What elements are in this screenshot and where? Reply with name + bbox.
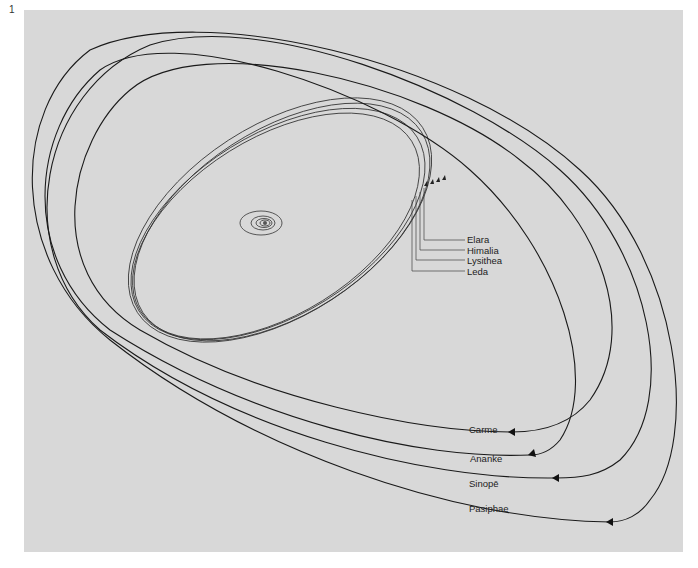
elara-leader: [424, 188, 465, 240]
himalia-arrow-icon: [430, 179, 434, 184]
callisto-orbit: [240, 211, 282, 235]
label-sinope: Sinopē: [469, 478, 499, 489]
leda-arrow-icon: [442, 175, 446, 180]
label-leda: Leda: [467, 266, 489, 277]
carme-orbit: [75, 64, 612, 432]
jupiter-icon: [263, 221, 267, 225]
pasiphae-orbit: [32, 32, 676, 522]
lysithea-leader: [416, 196, 465, 260]
inner-leader-lines: [412, 188, 465, 271]
lysithea-orbit: [91, 61, 465, 387]
central-system: [240, 211, 282, 235]
label-pasiphae: Pasiphae: [469, 503, 509, 514]
pasiphae-arrow-icon: [606, 518, 613, 526]
jupiter-moon-orbits-diagram: Elara Himalia Lysithea Leda Carme Ananke…: [0, 0, 698, 568]
ananke-arrow-icon: [528, 449, 536, 457]
lysithea-arrow-icon: [436, 177, 440, 182]
label-elara: Elara: [467, 234, 490, 245]
himalia-leader: [420, 192, 465, 250]
label-carme: Carme: [469, 424, 498, 435]
label-lysithea: Lysithea: [467, 255, 503, 266]
outer-orbits: [32, 32, 676, 526]
label-ananke: Ananke: [470, 453, 502, 464]
carme-arrow-icon: [508, 428, 515, 436]
sinope-arrow-icon: [552, 474, 559, 482]
